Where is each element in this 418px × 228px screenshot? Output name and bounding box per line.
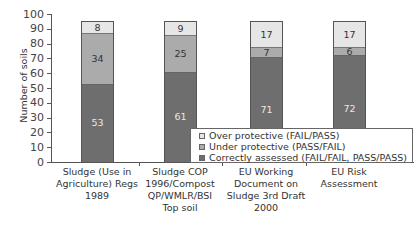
legend-item-over-protective: Over protective (FAIL/PASS)	[199, 130, 412, 141]
y-tick	[47, 29, 51, 30]
legend-label: Under protective (PASS/FAIL)	[209, 141, 345, 152]
bar-segment-under-protective: 25	[165, 36, 196, 73]
y-tick-label: 100	[14, 9, 44, 20]
bar-segment-under-protective: 6	[334, 48, 365, 57]
y-tick-label: 50	[14, 83, 44, 94]
bar-segment-under-protective: 34	[82, 34, 113, 84]
y-tick	[47, 118, 51, 119]
y-tick	[47, 88, 51, 89]
y-tick-label: 80	[14, 38, 44, 49]
stacked-bar-chart: Number of soils 0102030405060708090100 5…	[0, 0, 418, 228]
y-tick	[47, 58, 51, 59]
bar-segment-over-protective: 17	[251, 22, 282, 47]
legend-item-under-protective: Under protective (PASS/FAIL)	[199, 141, 412, 152]
y-tick-label: 30	[14, 112, 44, 123]
y-tick-label: 60	[14, 68, 44, 79]
y-axis	[51, 14, 52, 162]
y-tick-label: 70	[14, 53, 44, 64]
bar-segment-under-protective: 7	[251, 48, 282, 58]
bar-segment-over-protective: 17	[334, 22, 365, 47]
y-tick	[47, 162, 51, 163]
swatch-correctly-assessed	[199, 155, 205, 161]
y-tick-label: 20	[14, 127, 44, 138]
x-tick-label: EU WorkingDocument onSludge 3rd Draft200…	[221, 166, 311, 214]
bar-segment-over-protective: 9	[165, 22, 196, 35]
legend-label: Over protective (FAIL/PASS)	[209, 130, 340, 141]
y-tick	[47, 14, 51, 15]
legend-label: Correctly assessed (FAIL/FAIL, PASS/PASS…	[209, 152, 407, 163]
swatch-under-protective	[199, 144, 205, 150]
y-tick	[47, 132, 51, 133]
y-tick-label: 40	[14, 97, 44, 108]
swatch-over-protective	[199, 133, 205, 139]
bar: 53348	[81, 21, 114, 163]
y-tick-label: 90	[14, 23, 44, 34]
y-tick	[47, 147, 51, 148]
x-tick-label: Sludge (Use inAgriculture) Regs1989	[52, 166, 142, 202]
legend-item-correctly-assessed: Correctly assessed (FAIL/FAIL, PASS/PASS…	[199, 152, 412, 163]
bar-segment-correctly-assessed: 53	[82, 84, 113, 162]
bar-segment-over-protective: 8	[82, 22, 113, 34]
y-tick	[47, 103, 51, 104]
x-tick-label: Sludge COP1996/CompostQP/WMLR/BSITop soi…	[135, 166, 225, 214]
y-tick	[47, 73, 51, 74]
legend: Over protective (FAIL/PASS) Under protec…	[190, 128, 413, 163]
y-tick-label: 10	[14, 142, 44, 153]
y-tick-label: 0	[14, 157, 44, 168]
y-tick	[47, 44, 51, 45]
x-tick-label: EU RiskAssessment	[304, 166, 394, 190]
